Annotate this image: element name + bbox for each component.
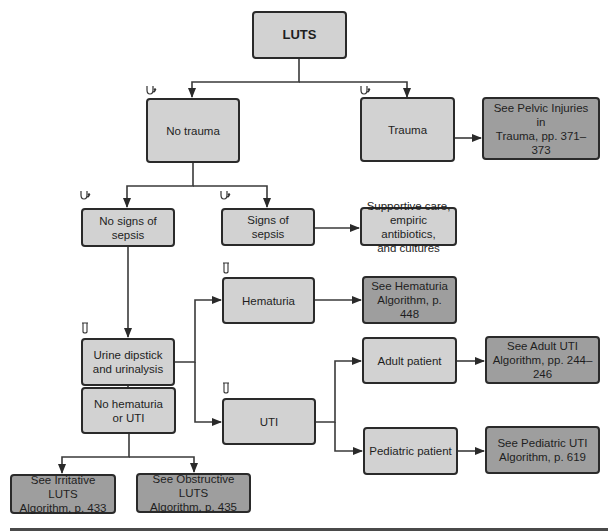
node-pediatric-patient: Pediatric patient [363,427,458,475]
node-supportive-care: Supportive care, empiric antibiotics, an… [360,207,457,246]
node-uti: UTI [222,398,316,445]
node-pediatric-uti-reference: See Pediatric UTI Algorithm, p. 619 [485,426,600,474]
bottom-rule-divider [10,528,608,531]
node-luts: LUTS [252,11,347,59]
test-tube-icon [220,382,232,394]
node-no-trauma: No trauma [146,98,240,163]
test-tube-icon [79,322,91,334]
node-obstructive-luts-reference: See Obstructive LUTS Algorithm, p. 435 [136,473,251,513]
node-urine-dipstick: Urine dipstick and urinalysis [81,338,175,386]
node-adult-patient: Adult patient [362,337,457,384]
test-tube-icon [220,262,232,274]
node-trauma: Trauma [360,97,455,162]
stethoscope-icon [219,190,231,202]
node-hematuria-reference: See Hematuria Algorithm, p. 448 [362,276,457,324]
node-no-hematuria-or-uti: No hematuria or UTI [81,387,176,434]
node-pelvic-injuries-reference: See Pelvic Injuries in Trauma, pp. 371–3… [482,97,600,160]
node-hematuria: Hematuria [222,277,315,324]
node-no-signs-of-sepsis: No signs of sepsis [81,208,175,247]
stethoscope-icon [359,85,371,97]
node-adult-uti-reference: See Adult UTI Algorithm, pp. 244–246 [485,336,600,384]
node-signs-of-sepsis: Signs of sepsis [221,208,315,246]
node-irritative-luts-reference: See Irritative LUTS Algorithm, p. 433 [10,474,116,514]
stethoscope-icon [145,85,157,97]
stethoscope-icon [79,190,91,202]
